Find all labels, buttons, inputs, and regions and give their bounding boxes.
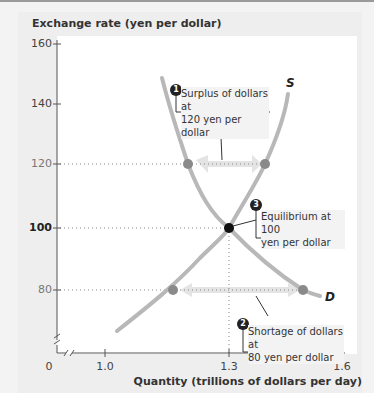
x-axis-title: Quantity (trillions of dollars per day) xyxy=(134,375,362,388)
callout-surplus: Surplus of dollars at 120 yen per dollar xyxy=(181,87,269,139)
callout-shortage: Shortage of dollars at 80 yen per dollar xyxy=(248,325,344,364)
callout-equilibrium-line2: yen per dollar xyxy=(261,236,345,249)
callout-surplus-line1: Surplus of dollars at xyxy=(181,87,269,113)
point-demand-120 xyxy=(183,159,193,169)
callout-equilibrium-line1: Equilibrium at 100 xyxy=(261,210,345,236)
y-tick-80: 80 xyxy=(22,283,52,296)
callout-shortage-line2: 80 yen per dollar xyxy=(248,351,344,364)
y-tick-120: 120 xyxy=(22,157,52,170)
y-tick-140: 140 xyxy=(22,97,52,110)
callout-shortage-line1: Shortage of dollars at xyxy=(248,325,344,351)
demand-label: D xyxy=(325,290,335,304)
y-tick-160: 160 xyxy=(22,37,52,50)
supply-label: S xyxy=(286,76,295,90)
x-tick-1-3: 1.3 xyxy=(214,360,244,373)
callout-equilibrium: Equilibrium at 100 yen per dollar xyxy=(261,210,345,249)
point-supply-80 xyxy=(168,285,178,295)
point-demand-80 xyxy=(298,285,308,295)
x-tick-0: 0 xyxy=(34,360,64,373)
y-tick-100: 100 xyxy=(22,221,52,234)
callout-surplus-line2: 120 yen per dollar xyxy=(181,113,269,139)
point-supply-120 xyxy=(260,159,270,169)
equilibrium-point xyxy=(224,223,234,233)
x-tick-1-0: 1.0 xyxy=(90,360,120,373)
